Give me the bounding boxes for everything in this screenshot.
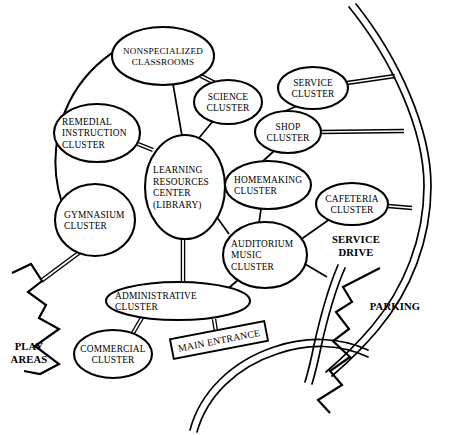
- administrative-cluster-label-line-1: ADMINISTRATIVE: [115, 291, 197, 301]
- commercial-cluster-outline[interactable]: [74, 330, 152, 378]
- school-cluster-diagram: School Facility Cluster Relationship Dia…: [0, 0, 452, 435]
- administrative-cluster-outline[interactable]: [106, 282, 250, 320]
- learning-resources-center-label-line-4: (LIBRARY): [153, 200, 202, 211]
- nodes-layer: NONSPECIALIZEDCLASSROOMSSCIENCECLUSTERSE…: [54, 27, 388, 378]
- commercial-cluster-label-line-2: CLUSTER: [91, 355, 135, 365]
- shop-cluster-label-line-1: SHOP: [276, 122, 301, 132]
- cafeteria-cluster-label-line-2: CLUSTER: [330, 205, 374, 215]
- science-cluster-label-line-2: CLUSTER: [206, 103, 250, 113]
- remedial-instruction-cluster-label-line-2: INSTRUCTION: [62, 128, 127, 138]
- service-cluster-label-line-2: CLUSTER: [291, 89, 335, 99]
- cafeteria-cluster-outline[interactable]: [316, 183, 388, 225]
- node-shop-cluster[interactable]: SHOPCLUSTER: [255, 111, 321, 153]
- science-cluster-outline[interactable]: [194, 80, 262, 124]
- nonspecialized-classrooms-label-line-2: CLASSROOMS: [132, 57, 195, 67]
- nonspecialized-classrooms-label-line-1: NONSPECIALIZED: [123, 46, 203, 56]
- learning-resources-center-label-line-2: RESOURCES: [153, 177, 209, 187]
- shop-cluster-label-line-2: CLUSTER: [266, 133, 310, 143]
- edge-shop-road-double: [321, 130, 404, 134]
- gymnasium-cluster-label-line-2: CLUSTER: [64, 221, 108, 231]
- service-drive-label-line-2: DRIVE: [338, 247, 373, 258]
- learning-resources-center-label-line-1: LEARNING: [153, 165, 203, 175]
- node-remedial-instruction-cluster[interactable]: REMEDIALINSTRUCTIONCLUSTER: [54, 104, 140, 162]
- nonspecialized-classrooms-outline[interactable]: [112, 27, 214, 85]
- service-drive-label-line-1: SERVICE: [332, 234, 380, 245]
- shop-cluster-outline[interactable]: [255, 111, 321, 153]
- service-drive-label: SERVICEDRIVE: [332, 234, 380, 258]
- gymnasium-cluster-label-line-1: GYMNASIUM: [64, 210, 125, 220]
- edge-cafeteria-auditorium: [300, 219, 330, 240]
- homemaking-cluster-outline[interactable]: [225, 161, 311, 209]
- parking-label-line-1: PARKING: [370, 301, 421, 312]
- node-gymnasium-cluster[interactable]: GYMNASIUMCLUSTER: [55, 184, 135, 256]
- edge-service-road-double: [347, 75, 395, 85]
- node-learning-resources-center[interactable]: LEARNINGRESOURCESCENTER(LIBRARY): [145, 135, 225, 239]
- edge-remedial-learning-double: [137, 143, 153, 152]
- node-homemaking-cluster[interactable]: HOMEMAKINGCLUSTER: [225, 161, 311, 209]
- play-areas-label-line-2: AREAS: [11, 354, 48, 365]
- cafeteria-cluster-label-line-1: CAFETERIA: [325, 194, 378, 204]
- homemaking-cluster-label-line-1: HOMEMAKING: [234, 175, 302, 185]
- service-cluster-outline[interactable]: [278, 67, 348, 109]
- learning-resources-center-outline[interactable]: [145, 135, 225, 239]
- play-areas-label-line-1: PLAY: [15, 341, 44, 352]
- entrance-layer: MAIN ENTRANCE: [170, 321, 268, 359]
- edge-learning-administrative-double: [181, 239, 184, 284]
- auditorium-music-cluster-label-line-1: AUDITORIUM: [231, 239, 294, 249]
- parking-label: PARKING: [370, 301, 421, 312]
- auditorium-music-cluster-label-line-3: CLUSTER: [231, 262, 275, 272]
- edge-auditorium-servicedrive: [305, 264, 327, 277]
- edge-gymnasium-boundary-double: [40, 251, 81, 283]
- edge-cafeteria-road-double: [388, 205, 412, 210]
- main-entrance-sign[interactable]: MAIN ENTRANCE: [170, 321, 268, 359]
- gymnasium-cluster-outline[interactable]: [55, 184, 135, 256]
- node-cafeteria-cluster[interactable]: CAFETERIACLUSTER: [316, 183, 388, 225]
- service-drive-curve: [305, 265, 338, 382]
- learning-resources-center-label-line-3: CENTER: [153, 188, 191, 198]
- service-drive-curve-inner: [312, 268, 345, 384]
- service-cluster-label-line-1: SERVICE: [293, 78, 333, 88]
- node-commercial-cluster[interactable]: COMMERCIALCLUSTER: [74, 330, 152, 378]
- homemaking-cluster-label-line-2: CLUSTER: [234, 186, 278, 196]
- science-cluster-label-line-1: SCIENCE: [208, 92, 249, 102]
- remedial-instruction-cluster-label-line-1: REMEDIAL: [62, 117, 112, 127]
- cluster-diagram-canvas: School Facility Cluster Relationship Dia…: [0, 0, 452, 435]
- node-auditorium-music-cluster[interactable]: AUDITORIUMMUSICCLUSTER: [223, 222, 307, 288]
- node-service-cluster[interactable]: SERVICECLUSTER: [278, 67, 348, 109]
- node-administrative-cluster[interactable]: ADMINISTRATIVECLUSTER: [106, 282, 250, 320]
- node-science-cluster[interactable]: SCIENCECLUSTER: [194, 80, 262, 124]
- node-nonspecialized-classrooms[interactable]: NONSPECIALIZEDCLASSROOMS: [112, 27, 214, 85]
- commercial-cluster-label-line-1: COMMERCIAL: [80, 344, 146, 354]
- edge-nonspecialized-learning: [173, 84, 182, 136]
- remedial-instruction-cluster-label-line-3: CLUSTER: [62, 140, 106, 150]
- administrative-cluster-label-line-2: CLUSTER: [115, 302, 159, 312]
- main-entrance-drive-inner: [197, 346, 368, 432]
- auditorium-music-cluster-label-line-2: MUSIC: [231, 250, 262, 260]
- edge-homemaking-auditorium: [259, 209, 261, 223]
